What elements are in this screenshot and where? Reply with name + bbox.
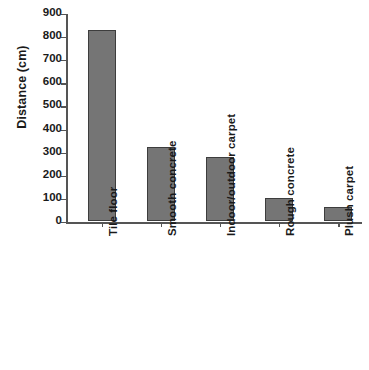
y-axis-title: Distance (cm) [15, 17, 29, 157]
y-axis-tick-label: 200 [43, 168, 62, 180]
bar-chart: Distance (cm) 90080070060050040030020010… [0, 0, 369, 370]
x-axis-category-label: Smooth concrete [166, 141, 178, 236]
x-axis-category-label: Indoor/outdoor carpet [225, 114, 237, 236]
y-axis-tick-label: 300 [43, 145, 62, 157]
x-axis-tick-mark [338, 222, 339, 227]
x-axis-tick-mark [279, 222, 280, 227]
x-axis-category-label: Plush carpet [343, 166, 355, 236]
x-axis-category-label: Rough concrete [284, 147, 296, 236]
y-axis-tick-label: 0 [56, 214, 62, 226]
y-axis-tick-label: 800 [43, 29, 62, 41]
x-axis-category-label: Tile floor [107, 187, 119, 236]
y-axis-tick-label: 600 [43, 75, 62, 87]
x-axis-tick-mark [220, 222, 221, 227]
y-axis-tick-label: 100 [43, 191, 62, 203]
y-axis-tick-label: 500 [43, 98, 62, 110]
y-axis-tick-label: 700 [43, 52, 62, 64]
y-axis-tick-label: 900 [43, 6, 62, 18]
x-axis-tick-mark [161, 222, 162, 227]
y-axis-tick-label: 400 [43, 122, 62, 134]
x-axis-tick-mark [102, 222, 103, 227]
y-axis-line [66, 14, 68, 223]
